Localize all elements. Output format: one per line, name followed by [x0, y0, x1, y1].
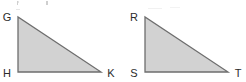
vertex-label-t: T: [235, 67, 242, 79]
figure-canvas: G H K R S T: [0, 0, 246, 82]
vertex-label-s: S: [130, 67, 137, 79]
scan-artifact: [148, 8, 162, 9]
scan-artifact: [18, 1, 19, 3]
scan-artifact: [16, 9, 20, 10]
triangle-rst: [145, 17, 228, 72]
triangle-rst-group: R S T: [130, 11, 242, 79]
vertex-label-k: K: [107, 67, 115, 79]
triangle-ghk-group: G H K: [3, 11, 116, 79]
vertex-label-r: R: [130, 11, 138, 23]
geometry-diagram: G H K R S T: [0, 0, 246, 82]
vertex-label-g: G: [3, 11, 12, 23]
triangle-ghk: [18, 17, 101, 72]
scan-artifact: [46, 1, 48, 5]
scan-artifact: [170, 7, 180, 8]
vertex-label-h: H: [3, 67, 11, 79]
